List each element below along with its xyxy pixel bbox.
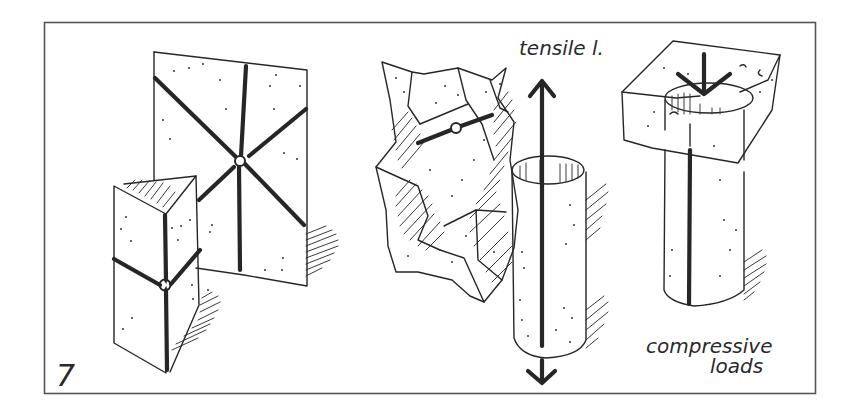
slab-shadow-hatch <box>306 226 338 276</box>
tensile-label: tensile l. <box>519 36 604 60</box>
prism-shadow-hatch <box>172 292 220 350</box>
shell-node <box>451 123 461 133</box>
compressive-column <box>622 41 780 306</box>
figure-7-sketch: tensile l. compressive loads 7 <box>0 0 856 415</box>
tensile-stipple <box>519 204 575 343</box>
tensile-cylinder <box>512 81 608 383</box>
triangular-prism <box>114 176 220 373</box>
prism-top-hatch <box>127 180 175 207</box>
tensile-top-hatch <box>520 160 578 182</box>
compressive-axis <box>689 150 690 304</box>
crumpled-shell <box>376 62 518 302</box>
slab-node <box>235 156 245 166</box>
shell-hatch-left <box>392 112 444 250</box>
tensile-shadow-hatch <box>586 184 608 348</box>
figure-number: 7 <box>56 358 75 393</box>
compressive-shadow-hatch <box>744 250 766 300</box>
compressive-label-line2: loads <box>710 354 763 378</box>
radial-slab <box>154 52 338 286</box>
